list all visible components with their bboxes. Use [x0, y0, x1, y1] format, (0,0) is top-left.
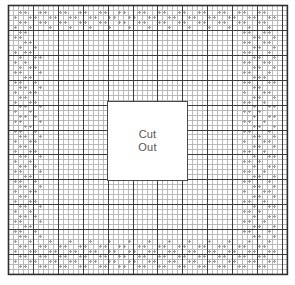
cross-stitch-chart: Cut Out [0, 0, 295, 285]
cut-out-label-line1: Cut [139, 128, 157, 141]
cut-out-region: Cut Out [107, 101, 188, 181]
cut-out-label-line2: Out [138, 141, 156, 154]
